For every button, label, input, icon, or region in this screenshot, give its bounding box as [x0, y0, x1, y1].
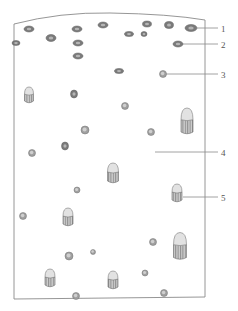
dark-oval-cell — [73, 53, 83, 59]
round-cell — [73, 293, 80, 300]
dark-oval-cell — [98, 22, 108, 28]
dark-oval-cell — [12, 41, 20, 46]
round-cell — [150, 239, 157, 246]
hatched-cone-cells — [25, 87, 194, 289]
round-cell — [160, 71, 167, 78]
dark-oval-cell — [71, 90, 78, 98]
dark-oval-cell — [165, 22, 174, 29]
label-1: 1 — [221, 24, 226, 34]
hatched-cone-cell — [108, 271, 118, 289]
dark-oval-cell — [173, 41, 183, 47]
hatched-cone-cell — [174, 233, 187, 260]
dark-oval-cell — [72, 26, 82, 32]
round-cell — [122, 103, 129, 110]
dark-oval-cell — [185, 25, 197, 32]
hatched-cone-cell — [181, 108, 193, 134]
round-cell — [29, 150, 36, 157]
cell-diagram — [0, 0, 238, 311]
round-cells — [20, 71, 168, 300]
dark-oval-cell — [125, 32, 134, 37]
dark-oval-cell — [115, 69, 124, 74]
round-cell — [148, 129, 155, 136]
round-cell — [74, 187, 80, 193]
round-cell — [142, 270, 148, 276]
label-3: 3 — [221, 70, 226, 80]
hatched-cone-cell — [25, 87, 34, 103]
round-cell — [20, 213, 27, 220]
label-5: 5 — [221, 193, 226, 203]
dark-oval-cell — [73, 40, 83, 46]
dark-oval-cell — [62, 142, 69, 150]
hatched-cone-cell — [45, 269, 55, 287]
hatched-cone-cell — [172, 184, 182, 202]
round-cell — [91, 250, 96, 255]
round-cell — [81, 126, 89, 134]
round-cell — [161, 290, 168, 297]
dark-oval-cells — [12, 21, 197, 150]
dark-oval-cell — [141, 32, 147, 37]
round-cell — [65, 252, 73, 260]
hatched-cone-cell — [63, 208, 73, 226]
label-4: 4 — [221, 148, 226, 158]
dark-oval-cell — [24, 26, 34, 32]
label-2: 2 — [221, 40, 226, 50]
hatched-cone-cell — [108, 163, 119, 183]
dark-oval-cell — [143, 21, 152, 27]
dark-oval-cell — [46, 35, 56, 42]
